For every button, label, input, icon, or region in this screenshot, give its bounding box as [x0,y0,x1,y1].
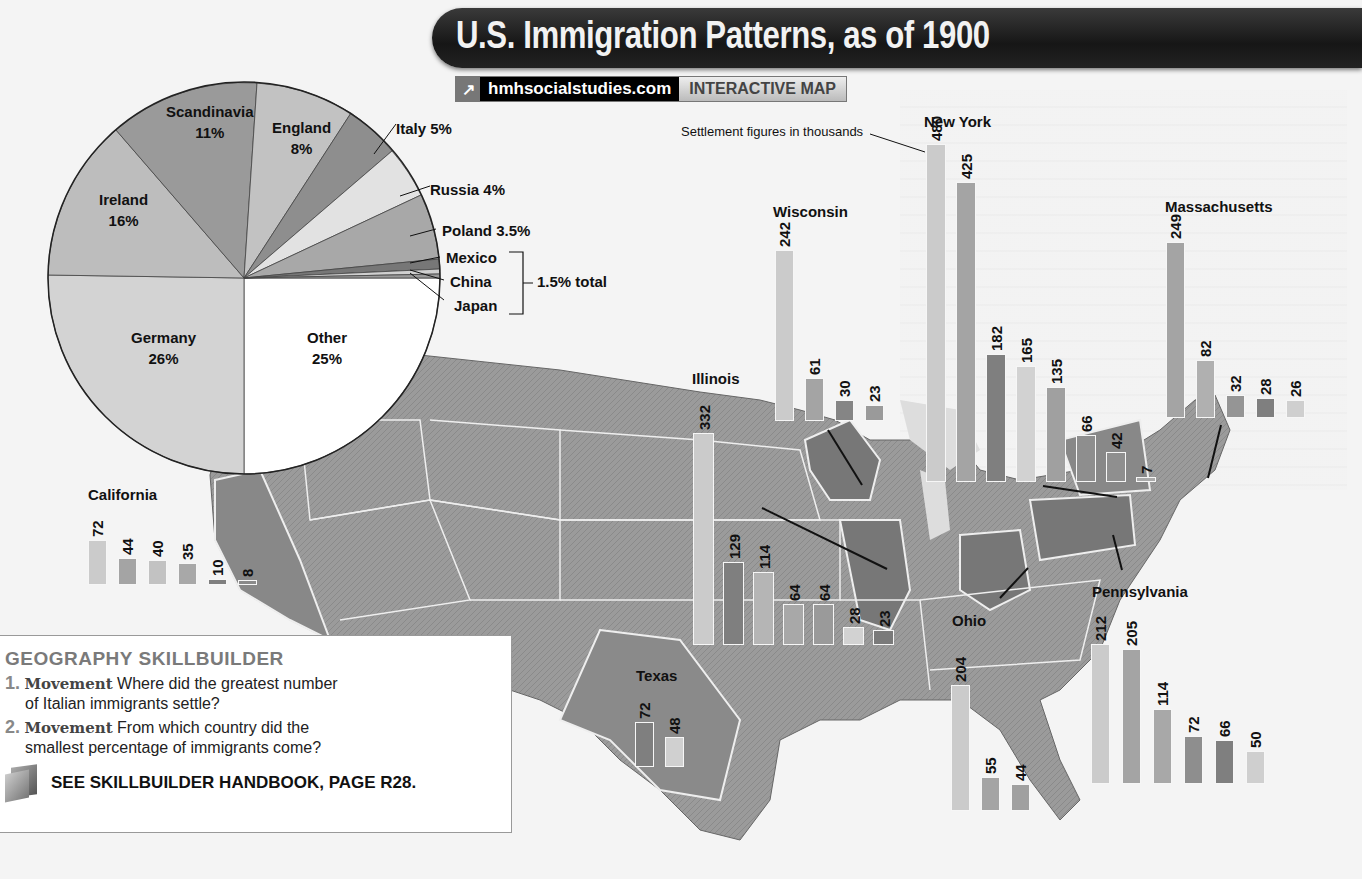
bar-illinois-4 [813,604,834,645]
state-label-illinois: Illinois [692,370,740,387]
bar-value-newyork-3: 165 [1018,338,1035,363]
bar-newyork-2 [986,354,1006,482]
bar-illinois-0 [693,433,714,645]
bar-texas-0 [635,722,654,767]
bar-illinois-2 [753,572,774,645]
callout-italy: Italy 5% [396,120,452,137]
bar-value-wisconsin-3: 23 [866,385,883,402]
bar-newyork-4 [1046,387,1066,482]
site-url[interactable]: hmhsocialstudies.com [480,77,679,101]
bar-value-massachusetts-2: 32 [1227,376,1244,393]
state-label-wisconsin: Wisconsin [773,203,848,220]
bar-california-1 [118,558,137,585]
bar-value-texas-0: 72 [636,703,653,720]
bar-value-pennsylvania-1: 205 [1123,621,1140,646]
state-label-massachusetts: Massachusetts [1165,198,1273,215]
interactive-map-link[interactable]: ↗ hmhsocialstudies.com INTERACTIVE MAP [455,76,847,102]
bar-value-ohio-0: 204 [952,656,969,681]
bar-value-newyork-2: 182 [988,326,1005,351]
bracket [505,250,535,316]
bar-value-massachusetts-1: 82 [1197,341,1214,358]
bar-pennsylvania-4 [1215,740,1234,784]
bar-value-pennsylvania-0: 212 [1092,616,1109,641]
state-label-texas: Texas [636,667,677,684]
bar-california-3 [178,563,197,585]
bar-value-illinois-3: 64 [786,584,803,601]
pie-slice-germany [48,275,244,474]
bar-value-newyork-4: 135 [1048,359,1065,384]
bar-newyork-0 [926,144,946,482]
bar-value-illinois-1: 129 [726,534,743,559]
external-link-arrow-icon: ↗ [456,77,480,101]
callout-china: China [450,273,492,290]
pie-label-scandinavia: Scandinavia11% [166,101,254,143]
bar-massachusetts-4 [1286,400,1305,418]
bar-ohio-2 [1011,784,1030,811]
bar-california-2 [148,560,167,585]
bar-value-california-1: 44 [119,538,136,555]
bar-pennsylvania-0 [1091,644,1110,784]
bar-massachusetts-1 [1196,360,1215,418]
bar-newyork-3 [1016,366,1036,482]
callout-poland: Poland 3.5% [442,222,530,239]
bar-newyork-7 [1136,477,1156,482]
bar-texas-1 [665,737,684,767]
bar-pennsylvania-2 [1153,709,1172,784]
bar-value-massachusetts-4: 26 [1287,380,1304,397]
bar-value-texas-1: 48 [666,718,683,735]
bar-value-illinois-0: 332 [696,404,713,429]
bar-wisconsin-2 [835,400,854,421]
bar-illinois-5 [843,627,864,645]
bar-value-california-5: 8 [239,569,256,577]
callout-total: 1.5% total [537,273,607,290]
bar-newyork-6 [1106,452,1126,482]
bar-value-illinois-5: 28 [846,607,863,624]
bar-value-newyork-7: 7 [1138,466,1155,474]
bar-value-pennsylvania-3: 72 [1185,717,1202,734]
bar-value-wisconsin-0: 242 [776,222,793,247]
state-label-ohio: Ohio [952,612,986,629]
skillbuilder-heading: GEOGRAPHY SKILLBUILDER [5,648,511,670]
bar-illinois-6 [873,630,894,645]
bar-california-5 [238,580,257,585]
bar-value-ohio-2: 44 [1012,764,1029,781]
pie-slice-other [244,278,440,474]
page-title: U.S. Immigration Patterns, as of 1900 [456,14,990,57]
bar-ohio-0 [951,685,970,811]
bar-value-pennsylvania-2: 114 [1154,682,1171,706]
pie-label-germany: Germany26% [131,327,196,369]
bar-newyork-5 [1076,435,1096,482]
bar-value-illinois-2: 114 [756,545,773,569]
bar-massachusetts-0 [1166,242,1185,418]
bar-california-0 [88,540,107,585]
bar-pennsylvania-3 [1184,736,1203,784]
title-banner: U.S. Immigration Patterns, as of 1900 [432,8,1362,68]
bar-value-ohio-1: 55 [982,757,999,774]
bar-pennsylvania-5 [1246,751,1265,784]
bar-value-newyork-5: 66 [1078,416,1095,433]
bar-california-4 [208,579,227,585]
pie-label-other: Other25% [307,327,347,369]
pie-label-england: England8% [272,117,331,159]
bar-pennsylvania-1 [1122,649,1141,784]
bar-value-illinois-4: 64 [816,584,833,601]
bar-value-illinois-6: 23 [876,611,893,628]
callout-mexico: Mexico [446,249,497,266]
bar-value-wisconsin-2: 30 [836,380,853,397]
interactive-map-tag: INTERACTIVE MAP [679,77,846,101]
question-1: 1. Movement Where did the greatest numbe… [5,673,511,714]
bar-value-pennsylvania-4: 66 [1216,721,1233,738]
bar-newyork-1 [956,182,976,482]
pie-label-ireland: Ireland16% [99,189,148,231]
handbook-reference: SEE SKILLBUILDER HANDBOOK, PAGE R28. [5,766,511,800]
bar-ohio-1 [981,777,1000,811]
bar-value-massachusetts-3: 28 [1257,379,1274,396]
callout-japan: Japan [454,297,497,314]
bar-value-california-0: 72 [89,521,106,538]
state-label-pennsylvania: Pennsylvania [1092,583,1188,600]
bar-value-newyork-0: 480 [928,116,945,141]
bar-value-california-2: 40 [149,541,166,558]
geography-skillbuilder-box: GEOGRAPHY SKILLBUILDER 1. Movement Where… [0,635,512,833]
bar-value-newyork-1: 425 [958,154,975,179]
handbook-book-icon [5,766,39,800]
